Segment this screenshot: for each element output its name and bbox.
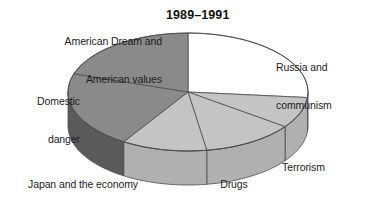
slice-label-japan-and-the-economy: Japan and the economy [28,178,168,191]
slice-label-russia-line2: communism [276,99,368,112]
slice-label-domestic-line1: Domestic [8,95,80,108]
chart-title: 1989–1991 [166,8,229,22]
pie-chart-figure: American Dream and American values Russi… [0,0,371,209]
slice-label-american-dream-line1: American Dream and [36,35,162,48]
slice-label-drugs: Drugs [208,178,260,191]
slice-label-russia-and-communism: Russia and communism [276,36,368,136]
slice-label-domestic-line2: danger [8,133,80,146]
slice-label-russia-line1: Russia and [276,61,368,74]
slice-label-terrorism: Terrorism [282,161,362,174]
slice-label-domestic-danger: Domestic danger [8,70,80,170]
